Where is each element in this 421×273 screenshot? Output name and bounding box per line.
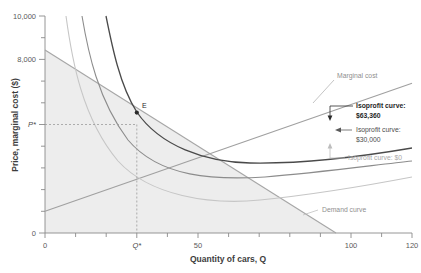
isoprofit-0-label: Isoprofit curve: $0 [348, 154, 402, 162]
x-tick-label-50: 50 [194, 241, 202, 250]
isoprofit-63360-arrowhead [328, 116, 333, 122]
y-axis-title: Price, marginal cost ($) [10, 78, 20, 172]
isoprofit-30000-value: $30,000 [356, 136, 381, 143]
chart-svg: 10,000 8,000 P* 0 0 Q* 50 100 120 Price,… [0, 0, 421, 273]
isoprofit-30000-label: Isoprofit curve: [356, 126, 401, 134]
equilibrium-point-e [135, 111, 139, 115]
y-tick-label-pstar: P* [28, 120, 37, 129]
x-tick-label-qstar: Q* [132, 241, 142, 250]
isoprofit-0-arrowhead [328, 143, 333, 149]
y-tick-label-8000: 8,000 [17, 55, 36, 64]
demand-curve-leader [303, 210, 318, 215]
y-axis-ticks [39, 16, 45, 233]
x-axis-title: Quantity of cars, Q [190, 254, 266, 264]
isoprofit-0-leader [330, 147, 345, 158]
demand-curve-label: Demand curve [322, 206, 366, 213]
y-tick-label-10000: 10,000 [13, 12, 36, 21]
x-tick-label-100: 100 [345, 241, 358, 250]
x-axis-ticks [45, 233, 412, 238]
isoprofit-30000-arrowhead [335, 128, 341, 133]
isoprofit-63360-label: Isoprofit curve: [356, 102, 405, 110]
point-e-label: E [142, 102, 147, 109]
marginal-cost-label: Marginal cost [337, 72, 378, 80]
x-tick-label-0: 0 [43, 241, 47, 250]
economics-chart: 10,000 8,000 P* 0 0 Q* 50 100 120 Price,… [0, 0, 421, 273]
marginal-cost-leader [313, 80, 334, 103]
y-tick-label-0: 0 [32, 229, 36, 238]
x-tick-label-120: 120 [406, 241, 419, 250]
isoprofit-63360-value: $63,360 [356, 112, 381, 120]
